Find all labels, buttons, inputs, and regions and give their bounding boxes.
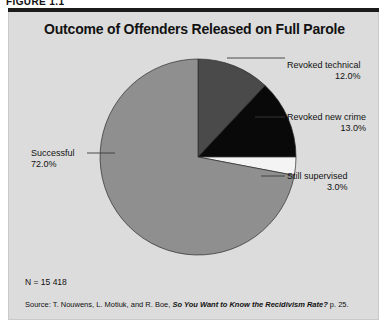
callout-revoked-technical: Revoked technical 12.0% [287,60,361,81]
source-work-title: So You Want to Know the Recidivism Rate? [172,300,327,309]
sample-size-label: N = 15 418 [25,277,67,287]
callout-still-supervised: Still supervised 3.0% [287,171,348,192]
callout-revoked-new-crime-value: 13.0% [287,123,366,134]
source-note: Source: T. Nouwens, L. Motiuk, and R. Bo… [25,300,349,309]
source-prefix: Source: T. Nouwens, L. Motiuk, and R. Bo… [25,300,170,309]
callout-successful-value: 72.0% [31,159,75,170]
callout-still-supervised-value: 3.0% [287,182,348,193]
figure-container: FIGURE 1.1 Outcome of Offenders Released… [0,0,387,332]
callout-revoked-new-crime: Revoked new crime 13.0% [287,112,366,133]
callout-still-supervised-name: Still supervised [287,171,348,181]
chart-panel: Outcome of Offenders Released on Full Pa… [8,12,379,320]
callout-revoked-technical-value: 12.0% [287,71,361,82]
figure-number-label: FIGURE 1.1 [6,0,64,7]
callout-successful-name: Successful [31,148,75,158]
callout-revoked-new-crime-name: Revoked new crime [287,112,366,122]
source-suffix: p. 25. [330,300,349,309]
callout-successful: Successful 72.0% [31,148,75,169]
callout-revoked-technical-name: Revoked technical [287,60,361,70]
